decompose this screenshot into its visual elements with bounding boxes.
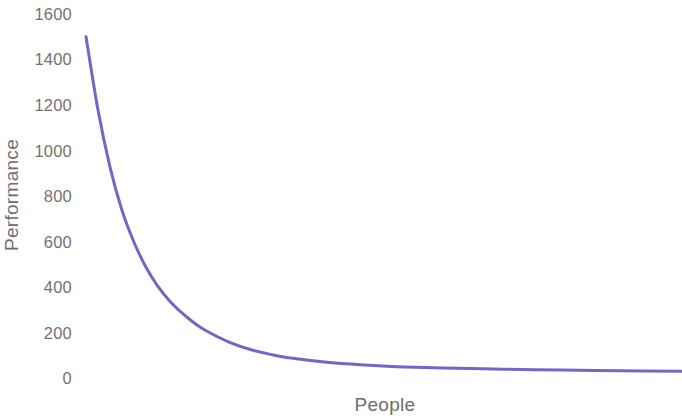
y-axis-title: Performance <box>1 139 23 251</box>
chart-container: 1600 1400 1200 1000 800 600 400 200 0 Pe… <box>0 0 682 420</box>
plot-area <box>0 0 682 420</box>
y-tick-label-1200: 1200 <box>0 96 72 115</box>
x-axis-title: People <box>355 394 416 416</box>
performance-curve <box>86 37 682 371</box>
y-tick-label-1600: 1600 <box>0 5 72 24</box>
y-tick-label-0: 0 <box>0 369 72 388</box>
plot-svg <box>0 0 682 420</box>
y-tick-label-200: 200 <box>0 324 72 343</box>
gridlines <box>78 14 682 378</box>
y-tick-label-400: 400 <box>0 278 72 297</box>
y-tick-label-1400: 1400 <box>0 50 72 69</box>
